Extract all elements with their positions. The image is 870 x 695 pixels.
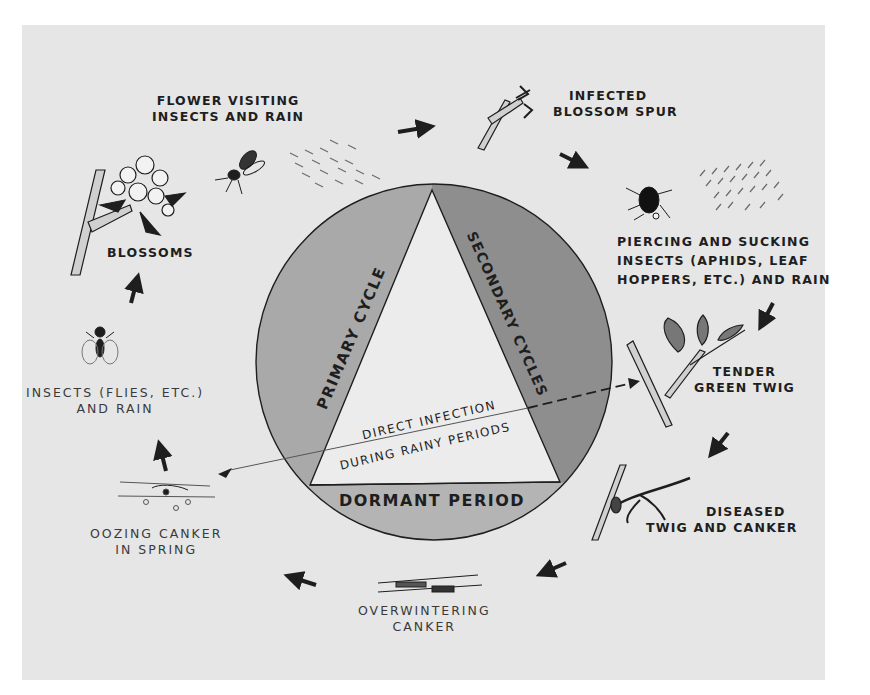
rain-icon [290, 140, 380, 187]
arrow-icon [560, 154, 582, 165]
arrow-icon [131, 280, 137, 303]
dormant-period-label: DORMANT PERIOD [339, 491, 525, 510]
blossoms-label: BLOSSOMS [107, 245, 194, 261]
flower-visiting-label: FLOWER VISITING INSECTS AND RAIN [152, 93, 304, 125]
tender-twig-label: TENDER GREEN TWIG [694, 364, 795, 396]
arrow-icon [291, 577, 316, 585]
bee-icon [215, 148, 266, 194]
cycle-diagram: PRIMARY CYCLE SECONDARY CYCLES DIRECT IN… [0, 0, 870, 695]
arrow-icon [713, 433, 728, 452]
insects-flies-label: INSECTS (FLIES, ETC.) AND RAIN [26, 385, 204, 417]
fly-icon [82, 327, 118, 364]
overwintering-canker-label: OVERWINTERING CANKER [358, 603, 491, 635]
arrow-icon [762, 303, 773, 324]
rain-icon [700, 160, 783, 210]
infected-spur-label: INFECTED BLOSSOM SPUR [553, 88, 678, 120]
diseased-twig-label: DISEASED TWIG AND CANKER [646, 504, 798, 536]
arrow-icon [543, 563, 566, 573]
arrow-icon [218, 468, 232, 478]
aphid-icon [626, 187, 672, 220]
blossom-spur-icon [478, 86, 532, 150]
arrow-icon [160, 447, 166, 471]
oozing-canker-icon [118, 482, 215, 511]
overwintering-canker-icon [378, 575, 482, 592]
arrow-icon [628, 378, 640, 389]
piercing-insects-label: PIERCING AND SUCKING INSECTS (APHIDS, LE… [617, 232, 831, 289]
arrow-icon [398, 127, 428, 132]
oozing-canker-label: OOZING CANKER IN SPRING [90, 526, 222, 558]
